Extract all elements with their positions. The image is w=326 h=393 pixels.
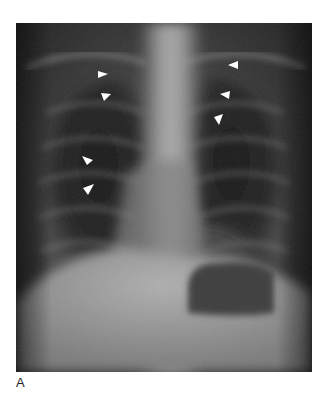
panel-label: A <box>16 376 25 389</box>
radiograph-image <box>16 23 312 372</box>
chest-radiograph <box>16 23 312 372</box>
